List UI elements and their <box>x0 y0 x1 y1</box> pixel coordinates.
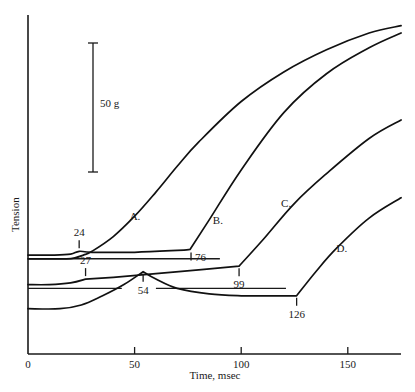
tension-time-chart: 050100150 A.B.C.D. 2476279954126 50 g Te… <box>0 0 415 392</box>
annotation-label-54: 54 <box>138 284 150 296</box>
x-tick-label-0: 0 <box>25 358 31 370</box>
curve-label-d: D. <box>336 242 347 254</box>
annotation-label-126: 126 <box>288 308 305 320</box>
annotation-label-24: 24 <box>74 226 86 238</box>
x-tick-label-50: 50 <box>129 358 141 370</box>
annotation-label-27: 27 <box>80 254 92 266</box>
curve-label-b: B. <box>213 214 223 226</box>
curve-label-c: C. <box>281 197 291 209</box>
x-ticks: 050100150 <box>25 347 356 370</box>
axes <box>28 15 401 354</box>
x-tick-label-150: 150 <box>340 358 357 370</box>
y-axis-label: Tension <box>9 197 21 232</box>
curves: A.B.C.D. <box>28 26 401 309</box>
scale-bar-label: 50 g <box>100 97 120 109</box>
x-axis-label: Time, msec <box>190 369 241 381</box>
curve-label-a: A. <box>130 210 141 222</box>
annotation-label-99: 99 <box>234 278 246 290</box>
scale-bar: 50 g <box>88 43 120 172</box>
annotation-label-76: 76 <box>195 251 207 263</box>
